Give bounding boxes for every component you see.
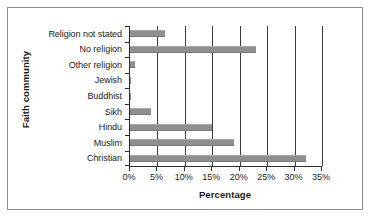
x-axis-tick-label: 15% xyxy=(202,172,220,182)
x-axis-tick xyxy=(129,167,130,171)
x-axis-tick-label: 10% xyxy=(175,172,193,182)
x-axis-title: Percentage xyxy=(129,189,321,200)
bar-row xyxy=(130,42,322,58)
x-axis-tick-label: 35% xyxy=(312,172,330,182)
y-axis-category-labels: Religion not statedNo religionOther reli… xyxy=(26,26,126,166)
y-axis-category-label: Buddhist xyxy=(26,88,126,104)
x-axis-tick-label: 0% xyxy=(122,172,135,182)
bar-row xyxy=(130,151,322,167)
bar-row xyxy=(130,73,322,89)
y-axis-category-label: No religion xyxy=(26,42,126,58)
bar-row xyxy=(130,26,322,42)
x-axis-tick-label: 5% xyxy=(150,172,163,182)
x-axis-tick-label: 25% xyxy=(257,172,275,182)
bar xyxy=(130,108,151,115)
bar xyxy=(130,61,135,68)
bar-row xyxy=(130,104,322,120)
x-axis-tick-label: 30% xyxy=(285,172,303,182)
bar xyxy=(130,155,306,162)
bar xyxy=(130,93,131,100)
y-axis-category-label: Sikh xyxy=(26,104,126,120)
x-axis-tick xyxy=(156,167,157,171)
y-axis-category-label: Christian xyxy=(26,151,126,167)
plot-area xyxy=(129,26,322,167)
bar-series xyxy=(130,26,322,166)
chart-frame: Faith community Religion not statedNo re… xyxy=(7,7,363,210)
x-axis-tick xyxy=(294,167,295,171)
bar-row xyxy=(130,135,322,151)
x-axis-tick-label: 20% xyxy=(230,172,248,182)
bar xyxy=(130,124,212,131)
x-axis-tick-labels: 0%5%10%15%20%25%30%35% xyxy=(129,172,321,184)
y-axis-category-label: Hindu xyxy=(26,119,126,135)
bar xyxy=(130,46,256,53)
x-axis-tick xyxy=(239,167,240,171)
x-axis-ticks xyxy=(129,167,321,171)
bar-row xyxy=(130,57,322,73)
y-axis-category-label: Jewish xyxy=(26,73,126,89)
x-axis-tick xyxy=(321,167,322,171)
bar-row xyxy=(130,119,322,135)
bar xyxy=(130,139,234,146)
x-axis-tick xyxy=(266,167,267,171)
bar-row xyxy=(130,88,322,104)
y-axis-category-label: Muslim xyxy=(26,135,126,151)
bar xyxy=(130,77,131,84)
y-axis-category-label: Other religion xyxy=(26,57,126,73)
gridline xyxy=(322,26,323,166)
x-axis-tick xyxy=(211,167,212,171)
bar xyxy=(130,30,165,37)
y-axis-category-label: Religion not stated xyxy=(26,26,126,42)
x-axis-tick xyxy=(184,167,185,171)
